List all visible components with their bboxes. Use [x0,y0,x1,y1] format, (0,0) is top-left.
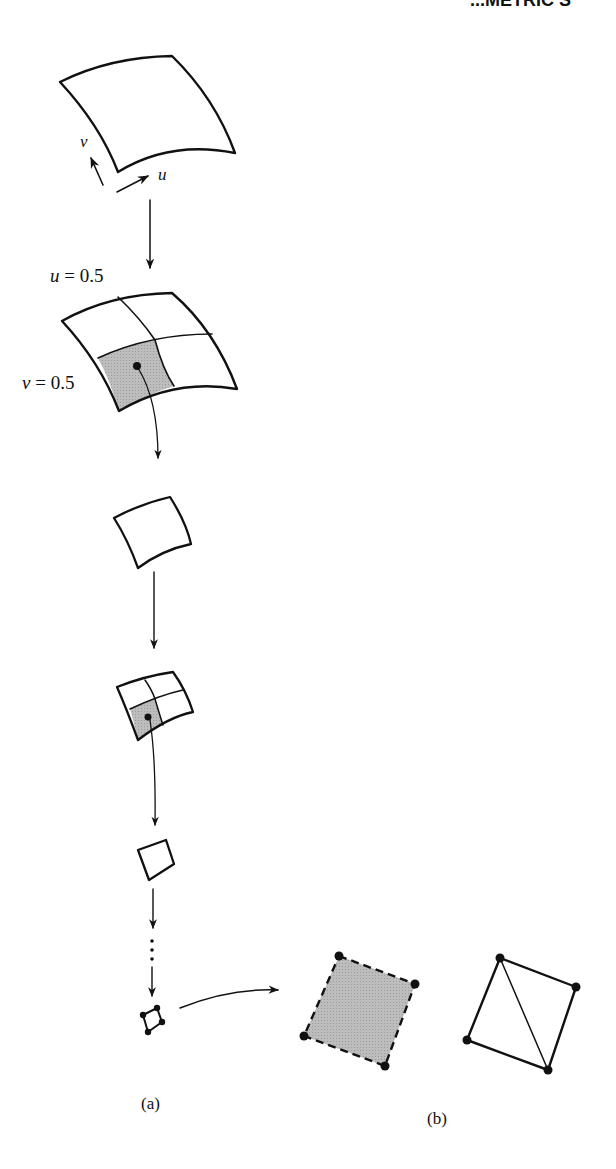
arrow-4 [150,720,155,825]
tiny-quad [140,1005,165,1035]
running-header: ...METRIC S [470,0,571,10]
ellipsis-dots [150,939,154,996]
u-split-label: u = 0.5 [50,265,103,286]
caption-a: (a) [141,1094,160,1113]
transfer-arrow [180,990,278,1008]
v-direction-arrow [91,158,103,185]
v-param-label: v [80,132,88,151]
u-param-label: u [158,165,167,184]
original-patch: v u [60,56,235,192]
sub-patch [114,497,191,648]
subdivision-diagram: ...METRIC S v u u = 0.5 v = 0.5 [0,0,616,1169]
u-direction-arrow [117,176,148,192]
triangulated-quad [463,954,581,1075]
flat-quad [300,952,420,1071]
subdivided-sub-patch [117,672,193,825]
v-split-label: v = 0.5 [22,372,74,393]
subdivided-patch: u = 0.5 v = 0.5 [22,265,237,458]
small-patch [138,840,174,928]
caption-b: (b) [427,1109,447,1128]
